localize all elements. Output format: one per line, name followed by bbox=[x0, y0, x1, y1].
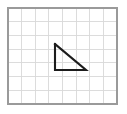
grid-triangle-figure bbox=[0, 0, 127, 114]
figure-root bbox=[0, 0, 127, 114]
figure-background bbox=[0, 0, 127, 114]
